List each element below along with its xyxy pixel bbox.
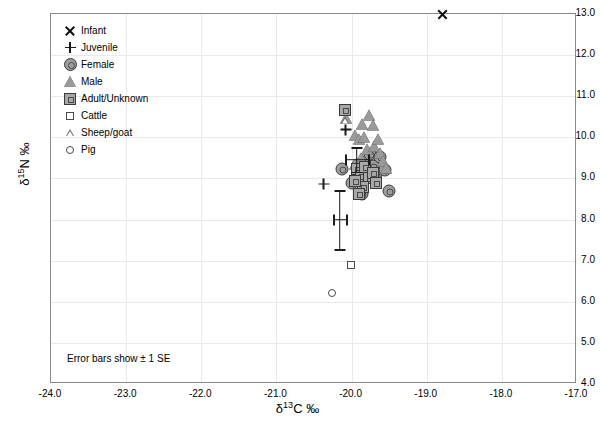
x-tick-label: -22.0 [170, 389, 230, 399]
circle-open-small-icon [61, 146, 79, 154]
plus-icon [61, 42, 79, 53]
data-point-female [383, 184, 396, 197]
x-tick-label: -19.0 [396, 389, 456, 399]
y-tick-label: 10.0 [551, 131, 595, 141]
legend-item-adult-unknown: Adult/Unknown [61, 90, 179, 107]
circle-filled-grey-icon [61, 58, 79, 71]
data-point-adult-unknown [353, 188, 365, 200]
legend-item-cattle: Cattle [61, 107, 179, 124]
y-axis-title: δ15N ‰ [16, 134, 32, 194]
y-tick-label: 4.0 [551, 378, 595, 388]
legend: InfantJuvenileFemaleMaleAdult/UnknownCat… [61, 22, 179, 158]
y-tick-label: 5.0 [551, 337, 595, 347]
y-tick-label: 11.0 [551, 90, 595, 100]
legend-label: Juvenile [79, 43, 118, 53]
y-tick-label: 13.0 [551, 8, 595, 18]
y-tick-label: 6.0 [551, 296, 595, 306]
legend-label: Infant [79, 26, 106, 36]
data-point-adult-unknown [339, 104, 351, 116]
legend-item-juvenile: Juvenile [61, 39, 179, 56]
error-bar-note: Error bars show ± 1 SE [67, 353, 170, 364]
x-cross-filled-icon [61, 25, 79, 36]
triangle-open-small-icon [61, 129, 79, 136]
gridline-horizontal [51, 343, 575, 344]
data-point-sheep-goat [341, 117, 349, 124]
legend-label: Sheep/goat [79, 128, 132, 138]
legend-item-male: Male [61, 73, 179, 90]
legend-item-pig: Pig [61, 141, 179, 158]
legend-label: Pig [79, 145, 95, 155]
legend-label: Cattle [79, 111, 107, 121]
gridline-horizontal [51, 220, 575, 221]
gridline-horizontal [51, 302, 575, 303]
data-point-male [380, 163, 392, 174]
data-point-infant [437, 9, 448, 20]
gridline-vertical [276, 14, 277, 382]
gridline-vertical [201, 14, 202, 382]
data-point-juvenile [318, 179, 329, 190]
y-tick-label: 12.0 [551, 49, 595, 59]
gridline-vertical [427, 14, 428, 382]
x-tick-label: -24.0 [20, 389, 80, 399]
legend-item-sheep-goat: Sheep/goat [61, 124, 179, 141]
gridline-vertical [502, 14, 503, 382]
gridline-horizontal [51, 178, 575, 179]
data-point-pig [328, 289, 336, 297]
data-point-adult-unknown [349, 175, 361, 187]
y-tick-label: 8.0 [551, 214, 595, 224]
x-tick-label: -23.0 [95, 389, 155, 399]
y-tick-label: 9.0 [551, 172, 595, 182]
data-point-cattle [347, 261, 355, 269]
data-point-male [367, 120, 379, 131]
x-tick-label: -17.0 [546, 389, 600, 399]
x-tick-label: -18.0 [471, 389, 531, 399]
legend-item-infant: Infant [61, 22, 179, 39]
legend-label: Male [79, 77, 103, 87]
x-axis-title: δ13C ‰ [0, 400, 595, 416]
data-point-male [372, 134, 384, 145]
legend-item-female: Female [61, 56, 179, 73]
legend-label: Adult/Unknown [79, 94, 148, 104]
square-open-small-icon [61, 112, 79, 120]
data-point-adult-unknown [370, 177, 382, 189]
x-tick-label: -21.0 [245, 389, 305, 399]
legend-label: Female [79, 60, 114, 70]
plot-area: InfantJuvenileFemaleMaleAdult/UnknownCat… [50, 13, 576, 383]
y-tick-label: 7.0 [551, 255, 595, 265]
triangle-filled-grey-icon [61, 76, 79, 87]
gridline-horizontal [51, 261, 575, 262]
square-filled-grey-icon [61, 93, 79, 105]
x-tick-label: -20.0 [321, 389, 381, 399]
